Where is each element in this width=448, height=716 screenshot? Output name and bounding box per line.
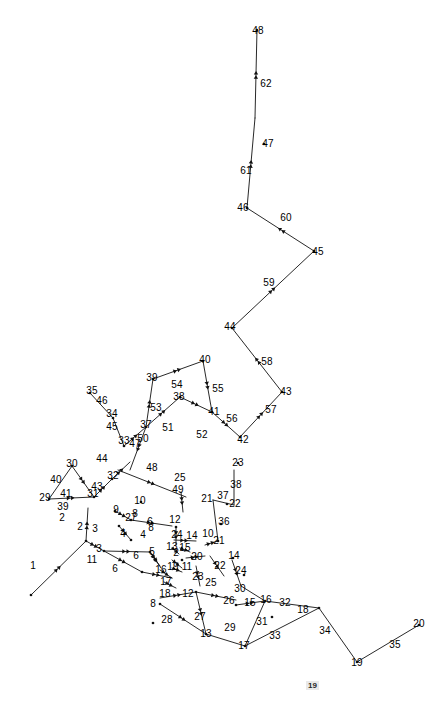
graph-node[interactable] [318,607,321,610]
graph-label: 45 [312,247,323,257]
graph-label: 36 [218,517,229,527]
graph-label: 29 [224,623,235,633]
graph-label: 10 [134,496,145,506]
graph-label: 41 [60,489,71,499]
graph-label: 22 [214,561,225,571]
graph-node[interactable] [226,503,229,506]
graph-label: 12 [169,515,180,525]
graph-label: 37 [140,420,151,430]
graph-edge [247,118,255,208]
graph-label: 35 [86,386,97,396]
graph-edge [203,361,212,412]
graph-label: 23 [192,572,203,582]
graph-label: 40 [199,355,210,365]
graph-label: 27 [194,612,205,622]
graph-label: 61 [240,166,251,176]
network-diagram-svg [0,0,448,716]
graph-label: 19 [351,658,362,668]
graph-label: 25 [205,578,216,588]
graph-label: 28 [161,615,172,625]
graph-label: 31 [87,489,98,499]
graph-label: 52 [196,430,207,440]
graph-label: 24 [235,566,246,576]
graph-label: 42 [237,435,248,445]
graph-label: 27 [125,513,136,523]
graph-node[interactable] [130,539,133,542]
graph-edge [85,508,90,541]
graph-label: 29 [39,493,50,503]
graph-label: 24 [171,530,182,540]
graph-label: 43 [280,387,291,397]
graph-node[interactable] [195,591,198,594]
graph-label: 59 [263,278,274,288]
graph-label: 49 [172,485,183,495]
graph-label: 38 [230,480,241,490]
graph-label: 35 [389,640,400,650]
graph-label: 33 [269,631,280,641]
graph-node[interactable] [271,616,274,619]
graph-label: 21 [213,536,224,546]
graph-label: 41 [208,407,219,417]
graph-label: 46 [96,396,107,406]
graph-label: 44 [224,322,235,332]
figure-canvas: 4862476146604559445843574256415540543953… [0,0,448,716]
ghost-text-line-2 [110,691,410,700]
graph-label: 10 [202,529,213,539]
graph-edge [232,328,282,392]
graph-node[interactable] [30,594,33,597]
graph-node[interactable] [152,622,155,625]
graph-label: 47 [129,439,140,449]
graph-label: 18 [159,589,170,599]
graph-label: 23 [232,458,243,468]
graph-node[interactable] [118,525,121,528]
graph-label: 6 [112,564,118,574]
graph-label: 14 [186,531,197,541]
graph-label: 30 [234,584,245,594]
graph-label: 22 [229,499,240,509]
graph-edge [265,601,319,608]
graph-label: 38 [173,392,184,402]
graph-label: 48 [146,463,157,473]
graph-label: 17 [160,577,171,587]
graph-node[interactable] [159,603,162,606]
graph-label: 60 [280,213,291,223]
graph-label: 8 [150,599,156,609]
graph-label: 11 [182,562,193,572]
ghost-caption-line [10,705,430,714]
graph-label: 4 [120,529,126,539]
graph-edge [254,30,259,118]
graph-label: 46 [237,203,248,213]
graph-edge [180,397,212,412]
graph-label: 37 [217,491,228,501]
graph-label: 21 [201,494,212,504]
graph-node[interactable] [235,604,238,607]
graph-label: 18 [297,605,308,615]
graph-label: 19 [167,562,178,572]
graph-label: 9 [113,505,119,515]
graph-label: 13 [200,629,211,639]
graph-label: 32 [279,598,290,608]
graph-edge [104,549,150,554]
graph-label: 39 [57,502,68,512]
graph-label: 16 [155,565,166,575]
graph-label: 3 [96,544,102,554]
graph-node[interactable] [103,550,106,553]
graph-label: 1 [30,561,36,571]
graph-label: 31 [256,617,267,627]
graph-node[interactable] [85,540,88,543]
graph-node[interactable] [175,526,178,529]
graph-label: 26 [223,596,234,606]
graph-label: 58 [261,357,272,367]
graph-label: 11 [87,555,98,565]
graph-label: 48 [252,26,263,36]
graph-label: 14 [228,551,239,561]
graph-label: 3 [92,524,98,534]
graph-edge [357,625,419,662]
graph-node[interactable] [141,571,144,574]
graph-label: 53 [150,403,161,413]
graph-label: 2 [173,548,179,558]
graph-label: 2 [59,513,65,523]
ghost-text-line-1 [20,682,430,691]
graph-label: 45 [106,422,117,432]
graph-label: 54 [171,380,182,390]
